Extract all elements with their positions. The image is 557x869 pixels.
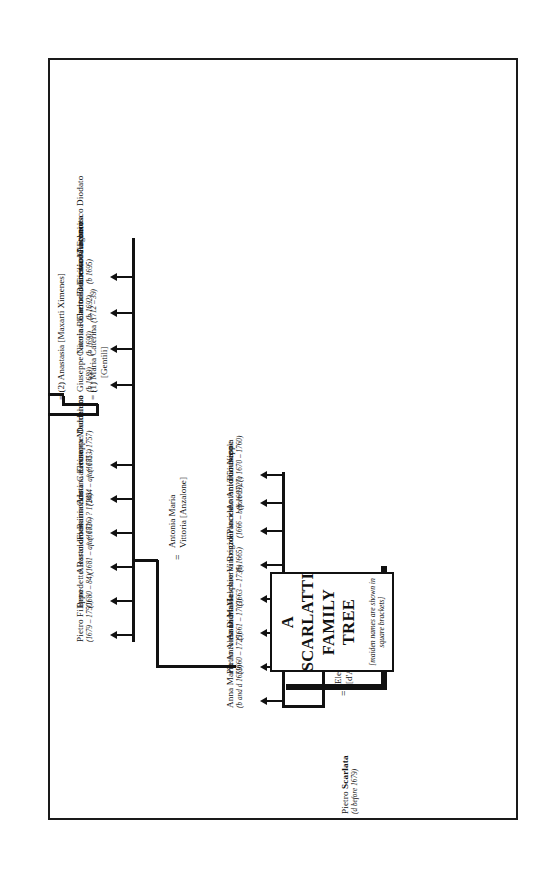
arrowhead-g3-2: [110, 597, 117, 605]
arrowhead-g3-3: [110, 563, 117, 571]
arrowhead-g3-4: [110, 529, 117, 537]
chart-title-line-1: A SCARLATTI: [278, 573, 317, 672]
title-cartouche: A SCARLATTI FAMILY TREE [maiden names ar…: [270, 572, 394, 672]
stem-g3-1: [116, 634, 133, 636]
arrowhead-g2-2: [260, 663, 267, 671]
connector-alessandro-across: [156, 560, 159, 668]
stem-g3b-3: [116, 312, 133, 314]
person-dates: (b 1695): [86, 176, 94, 284]
arrowhead-g3-5: [110, 495, 117, 503]
person-g3b-4: Giovanni Francesco Diodato (b 1695): [75, 176, 94, 284]
stem-g3b-2: [116, 348, 133, 350]
stem-g2-1: [266, 700, 283, 702]
arrowhead-g2-6: [260, 527, 267, 535]
connector-root-riser: [284, 705, 324, 708]
stem-g3-4: [116, 532, 133, 534]
arrowhead-g3b-3: [110, 309, 117, 317]
spouse-name-line1: Antonia Maria: [167, 477, 178, 548]
marriage-equals-root: =: [339, 691, 349, 696]
chart-title-line-2: FAMILY TREE: [319, 589, 358, 656]
stem-g3b-4: [116, 276, 133, 278]
person-root: Pietro Scarlata (d before 1679): [340, 755, 359, 814]
marriage-2-domenico: = (2) Anastasia [Maxarti Ximenes]: [56, 273, 67, 400]
marriage-2-line1: = (2) Anastasia [Maxarti Ximenes]: [56, 273, 67, 400]
spouse-alessandro: Antonia Maria Vittoria [Anzalone]: [167, 477, 188, 548]
bracket-domenico-vertical: [62, 403, 98, 406]
arrowhead-g3b-4: [110, 273, 117, 281]
person-g2-8: Tommaso (c 1670 – 1760): [225, 436, 244, 482]
sibling-bar-generation-3: [132, 238, 135, 642]
stem-g2-7: [266, 502, 283, 504]
connector-marriage1-riser: [48, 413, 98, 416]
title-box-shadow-bottom: [286, 684, 387, 690]
page-canvas: Pietro Scarlata (d before 1679) = Eleono…: [0, 0, 557, 869]
marriage-equals-alessandro: =: [173, 555, 183, 560]
arrowhead-g2-1: [260, 697, 267, 705]
connector-marriage2-riser: [48, 393, 64, 396]
chart-title: A SCARLATTI FAMILY TREE: [278, 573, 359, 672]
person-name: Tommaso: [225, 436, 236, 482]
arrowhead-g2-7: [260, 499, 267, 507]
person-dates: (c 1670 – 1760): [236, 436, 244, 482]
stem-g3b-1: [116, 384, 133, 386]
family-tree-diagram: Pietro Scarlata (d before 1679) = Eleono…: [48, 58, 518, 820]
marriage-1-line1: = (1) Maria Caterina (1712 – 39): [88, 289, 99, 400]
person-dates: (d before 1679): [351, 755, 359, 814]
person-name: Pietro Scarlata: [340, 755, 351, 814]
person-dates: (1685 – 1757): [86, 395, 94, 472]
arrowhead-g2-5: [260, 561, 267, 569]
chart-title-note: [maiden names are shown in square bracke…: [368, 574, 386, 670]
connector-alessandro-riser: [134, 559, 158, 562]
marriage-1-domenico: = (1) Maria Caterina (1712 – 39) [Gentil…: [88, 289, 109, 400]
arrowhead-g2-4: [260, 595, 267, 603]
stem-g2-8: [266, 474, 283, 476]
stem-g3-6: [116, 464, 133, 466]
arrowhead-g3-6: [110, 461, 117, 469]
stem-g2-5: [266, 564, 283, 566]
arrowhead-g2-3: [260, 629, 267, 637]
chart-viewport: Pietro Scarlata (d before 1679) = Eleono…: [48, 58, 518, 820]
stem-g3-5: [116, 498, 133, 500]
stem-g3-2: [116, 600, 133, 602]
person-g3-6: Giuseppe Domenico (1685 – 1757): [75, 395, 94, 472]
bracket-domenico-to-wife2: [62, 396, 65, 406]
arrowhead-g3b-2: [110, 345, 117, 353]
marriage-1-line2: [Gentili]: [99, 289, 110, 400]
arrowhead-g2-8: [260, 471, 267, 479]
arrowhead-g3-1: [110, 631, 117, 639]
stem-g2-6: [266, 530, 283, 532]
person-name: Giuseppe Domenico: [75, 395, 86, 472]
arrowhead-g3b-1: [110, 381, 117, 389]
person-name: Giovanni Francesco Diodato: [75, 176, 86, 284]
connector-alessandro-drop: [156, 665, 236, 668]
spouse-name-line2: Vittoria [Anzalone]: [178, 477, 189, 548]
stem-g3-3: [116, 566, 133, 568]
